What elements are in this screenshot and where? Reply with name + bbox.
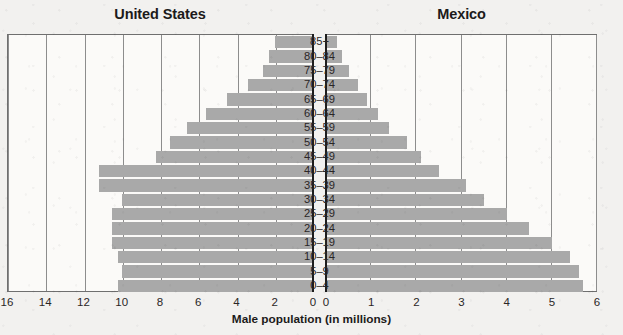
x-tick-left-8: 8 xyxy=(145,296,175,308)
x-tick-left-10: 10 xyxy=(107,296,137,308)
x-tick-right-6: 6 xyxy=(582,296,612,308)
age-group-label-75–79: 75–79 xyxy=(285,64,354,76)
bar-mexico-15–19 xyxy=(326,237,552,250)
x-tick-right-4: 4 xyxy=(492,296,522,308)
bar-series-mexico xyxy=(326,35,596,291)
age-group-label-35–39: 35–39 xyxy=(285,179,354,191)
age-group-label-70–74: 70–74 xyxy=(285,78,354,90)
age-group-label-65–69: 65–69 xyxy=(285,93,354,105)
age-group-label-45–49: 45–49 xyxy=(285,150,354,162)
bar-united-states-35–39 xyxy=(99,179,313,192)
bar-united-states-0–4 xyxy=(118,280,313,293)
bar-mexico-20–24 xyxy=(326,222,529,235)
bar-united-states-25–29 xyxy=(112,208,313,221)
age-group-label-0–4: 0–4 xyxy=(285,279,354,291)
bar-mexico-0–4 xyxy=(326,280,583,293)
age-group-label-10–14: 10–14 xyxy=(285,250,354,262)
age-group-label-60–64: 60–64 xyxy=(285,107,354,119)
age-group-label-85+: 85+ xyxy=(285,35,354,47)
x-axis-title: Male population (in millions) xyxy=(0,312,623,326)
bar-united-states-40–44 xyxy=(99,165,313,178)
bar-united-states-10–14 xyxy=(118,251,313,264)
age-group-label-20–24: 20–24 xyxy=(285,222,354,234)
bar-mexico-5–9 xyxy=(326,265,579,278)
x-tick-left-2: 2 xyxy=(260,296,290,308)
bar-united-states-15–19 xyxy=(112,237,313,250)
chart-title-united-states: United States xyxy=(0,6,320,22)
x-tick-left-6: 6 xyxy=(183,296,213,308)
x-tick-left-14: 14 xyxy=(30,296,60,308)
age-group-axis: 85+80–8475–7970–7465–6960–6455–5950–5445… xyxy=(313,34,326,292)
bar-mexico-10–14 xyxy=(326,251,570,264)
x-tick-left-12: 12 xyxy=(69,296,99,308)
age-group-label-30–34: 30–34 xyxy=(285,193,354,205)
gridline-right-6 xyxy=(596,35,597,291)
bar-united-states-20–24 xyxy=(112,222,313,235)
x-tick-left-4: 4 xyxy=(222,296,252,308)
x-tick-right-2: 2 xyxy=(401,296,431,308)
x-tick-right-5: 5 xyxy=(537,296,567,308)
age-group-label-80–84: 80–84 xyxy=(285,50,354,62)
chart-title-mexico: Mexico xyxy=(326,6,597,22)
age-group-label-50–54: 50–54 xyxy=(285,136,354,148)
plot-area-united-states xyxy=(7,34,313,292)
x-tick-right-0: 0 xyxy=(311,296,341,308)
age-group-label-15–19: 15–19 xyxy=(285,236,354,248)
x-tick-left-16: 16 xyxy=(0,296,22,308)
plot-area-mexico xyxy=(326,34,597,292)
x-tick-right-1: 1 xyxy=(356,296,386,308)
age-group-label-5–9: 5–9 xyxy=(285,265,354,277)
bar-series-united-states xyxy=(8,35,313,291)
age-group-label-25–29: 25–29 xyxy=(285,207,354,219)
age-group-label-55–59: 55–59 xyxy=(285,121,354,133)
x-tick-right-3: 3 xyxy=(447,296,477,308)
age-group-label-40–44: 40–44 xyxy=(285,164,354,176)
